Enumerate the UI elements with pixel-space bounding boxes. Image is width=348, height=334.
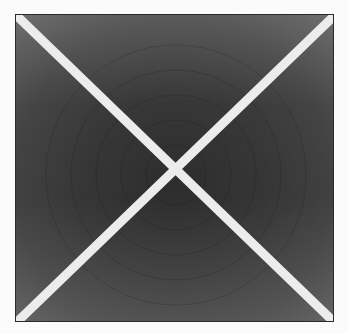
x-cross-graphic [16,15,334,322]
dark-square-panel [15,14,334,322]
